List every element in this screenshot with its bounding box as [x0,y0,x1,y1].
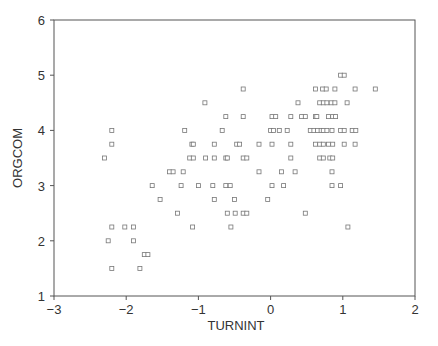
x-tick-label: −2 [119,302,134,317]
x-axis-ticks: −3−2−1012 [47,296,419,317]
data-point-square-marker [270,142,274,146]
data-point-square-marker [171,170,175,174]
data-point-square-marker [191,156,195,160]
data-point-square-marker [334,115,338,119]
data-point-square-marker [204,156,208,160]
data-point-square-marker [342,128,346,132]
data-point-square-marker [277,128,281,132]
data-point-square-marker [289,156,293,160]
data-point-square-marker [225,211,229,215]
data-point-square-marker [289,115,293,119]
data-point-square-marker [131,239,135,243]
data-point-square-marker [233,211,237,215]
y-axis-label: ORGCOM [10,128,25,188]
x-tick-label: 2 [411,302,418,317]
data-point-square-marker [324,87,328,91]
data-point-square-marker [333,87,337,91]
data-point-square-marker [241,115,245,119]
data-point-square-marker [353,142,357,146]
data-point-square-marker [296,101,300,105]
data-point-square-marker [123,225,127,229]
data-point-square-marker [176,211,180,215]
data-point-square-marker [333,101,337,105]
x-tick-label: 1 [339,302,346,317]
data-point-square-marker [220,128,224,132]
data-point-square-marker [315,115,319,119]
data-point-square-marker [212,156,216,160]
data-point-square-marker [229,225,233,229]
x-axis-label: TURNINT [207,318,264,333]
data-point-square-marker [150,184,154,188]
data-point-square-marker [211,184,215,188]
data-point-square-marker [289,142,293,146]
data-point-square-marker [354,128,358,132]
data-point-square-marker [110,225,114,229]
data-point-square-marker [285,128,289,132]
data-point-square-marker [325,128,329,132]
data-point-square-marker [224,115,228,119]
data-point-square-marker [282,184,286,188]
data-point-square-marker [110,142,114,146]
data-point-square-marker [181,170,185,174]
data-point-square-marker [330,184,334,188]
data-point-square-marker [321,142,325,146]
plot-frame [54,20,415,296]
data-point-square-marker [373,87,377,91]
data-point-square-marker [233,197,237,201]
data-point-square-marker [313,87,317,91]
data-point-square-marker [212,197,216,201]
data-point-square-marker [330,128,334,132]
y-tick-label: 5 [38,68,45,83]
y-tick-label: 1 [38,289,45,304]
data-point-square-marker [266,197,270,201]
data-point-square-marker [346,225,350,229]
data-point-square-marker [339,184,343,188]
data-point-square-marker [225,156,229,160]
data-point-square-marker [196,184,200,188]
data-point-square-marker [238,142,242,146]
data-point-square-marker [203,101,207,105]
data-point-square-marker [331,156,335,160]
data-point-square-marker [331,142,335,146]
data-point-square-marker [313,142,317,146]
data-point-square-marker [303,211,307,215]
data-point-square-marker [257,170,261,174]
x-tick-label: 0 [267,302,274,317]
data-point-square-marker [272,128,276,132]
data-point-square-marker [325,101,329,105]
data-point-square-marker [303,115,307,119]
data-point-square-marker [138,266,142,270]
data-point-square-marker [326,142,330,146]
data-point-square-marker [146,253,150,257]
data-point-square-marker [321,156,325,160]
data-point-square-marker [179,184,183,188]
data-point-square-marker [191,142,195,146]
y-tick-label: 6 [38,13,45,28]
x-tick-label: −1 [191,302,206,317]
data-point-square-marker [257,142,261,146]
data-point-square-marker [241,87,245,91]
data-point-square-marker [353,87,357,91]
data-points [103,73,378,270]
data-point-square-marker [274,115,278,119]
data-point-square-marker [131,225,135,229]
data-point-square-marker [293,170,297,174]
data-point-square-marker [183,128,187,132]
data-point-square-marker [342,142,346,146]
data-point-square-marker [342,73,346,77]
data-point-square-marker [110,128,114,132]
data-point-square-marker [103,156,107,160]
data-point-square-marker [326,115,330,119]
data-point-square-marker [228,184,232,188]
data-point-square-marker [106,239,110,243]
data-point-square-marker [330,170,334,174]
data-point-square-marker [245,156,249,160]
data-point-square-marker [345,101,349,105]
scatter-chart: −3−2−1012 123456 TURNINT ORGCOM [0,0,438,346]
y-tick-label: 3 [38,179,45,194]
data-point-square-marker [270,184,274,188]
y-axis-ticks: 123456 [38,13,54,304]
data-point-square-marker [110,266,114,270]
data-point-square-marker [224,184,228,188]
x-tick-label: −3 [47,302,62,317]
